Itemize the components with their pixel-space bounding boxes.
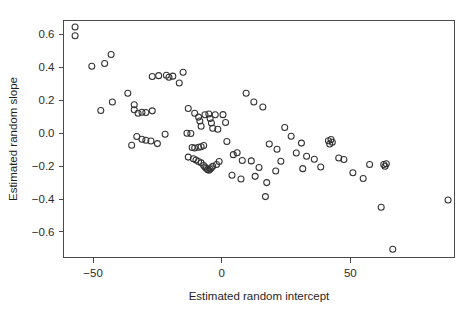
y-tick-label: 0.2 [39,94,55,106]
y-tick-label: 0.6 [39,28,55,40]
x-tick-label: −50 [83,267,103,279]
y-tick-label: −0.6 [32,226,55,238]
y-axis-title: Estimated random slope [7,77,19,201]
x-tick-label: 0 [218,267,224,279]
plot-canvas: −50050 −0.6−0.4−0.20.00.20.40.6 Estimate… [0,0,475,310]
y-tick-label: 0.4 [39,61,56,73]
scatter-plot-figure: −50050 −0.6−0.4−0.20.00.20.40.6 Estimate… [0,0,475,310]
y-tick-label: −0.2 [32,160,55,172]
figure-background [0,0,475,310]
x-axis-title: Estimated random intercept [189,290,330,302]
y-tick-label: −0.4 [32,193,55,205]
y-tick-label: 0.0 [39,127,55,139]
x-tick-label: 50 [344,267,357,279]
